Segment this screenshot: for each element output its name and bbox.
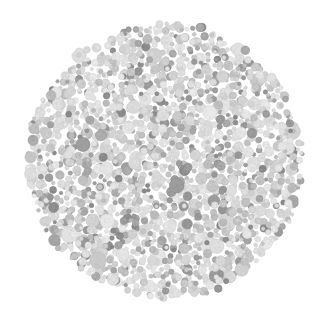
ishihara-plate-figure: Ishihara pseudoisochromatic test plate (… — [0, 0, 329, 321]
ishihara-plate-canvas — [0, 0, 329, 321]
